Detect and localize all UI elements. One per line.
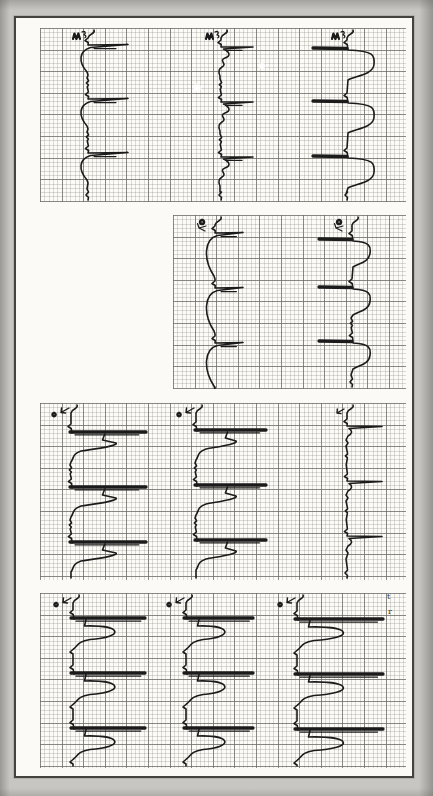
ecg-panel-2	[173, 215, 406, 389]
ecg-panel-1	[40, 28, 406, 202]
dot-arrow-mark-p4-s1-0	[54, 603, 57, 606]
ecg-strip-p4-s3	[278, 595, 383, 766]
qrs-spikes-p4-s3	[295, 619, 383, 729]
ecg-panel-2-traces	[173, 215, 406, 389]
trace-p1-s1	[81, 30, 128, 200]
m-squiggle-mark-p1-s3-1	[341, 32, 345, 38]
dot-arrow-mark-p4-s2-1	[176, 598, 184, 603]
dot-arrow-mark-p4-s2-0	[167, 603, 170, 606]
retrace-p3-s1	[75, 435, 139, 545]
retrace-p1-s1	[94, 49, 116, 157]
retrace-p3-s2	[200, 433, 260, 543]
qrs-spikes-p1-s3	[313, 48, 347, 157]
m-squiggle-mark-p1-s2-0	[206, 34, 213, 40]
scanned-figure: tr	[0, 0, 433, 796]
ecg-panel-3	[40, 403, 406, 580]
m-squiggle-mark-p1-s1-0	[73, 34, 80, 40]
scan-spot-0	[192, 83, 202, 93]
trace-p4-s3	[294, 595, 343, 766]
qrs-spikes-p3-s2	[195, 430, 266, 540]
retrace-p4-s1	[76, 621, 141, 731]
dot-arrow-mark-p3-s1-1	[61, 408, 69, 413]
ecg-strip-p2-s2	[319, 217, 370, 387]
ecg-panel-4-traces	[40, 593, 406, 768]
dot-squiggle-mark-p2-s1-0	[200, 220, 204, 224]
ecg-strip-p3-s2	[177, 405, 266, 578]
ecg-strip-p1-s2	[206, 30, 253, 200]
dot-arrow-mark-p3-s2-1	[186, 408, 194, 413]
scan-shadow-top	[0, 0, 433, 10]
qrs-spikes-p4-s1	[71, 618, 145, 728]
ecg-strip-p1-s3	[313, 30, 374, 200]
dot-arrow-mark-p4-s3-0	[278, 603, 281, 606]
ecg-strip-p3-s3	[337, 405, 382, 578]
scan-shadow-right	[419, 0, 433, 796]
ecg-strip-p2-s1	[198, 217, 244, 389]
retrace-p4-s2	[189, 621, 249, 731]
margin-letter-r: r	[388, 608, 392, 616]
retrace-p4-s3	[300, 622, 377, 732]
ecg-panel-1-traces	[40, 28, 406, 202]
dot-arrow-mark-p3-s2-0	[177, 413, 180, 416]
trace-p1-s3	[344, 30, 374, 200]
m-squiggle-mark-p1-s3-0	[332, 34, 339, 40]
figure-page: tr	[14, 16, 414, 778]
ecg-strip-p1-s1	[73, 30, 128, 200]
trace-p2-s2	[349, 217, 370, 387]
m-squiggle-mark-p1-s1-1	[82, 32, 86, 38]
arrow-mark-p3-s3-0	[337, 409, 344, 414]
margin-letter-t: t	[387, 593, 390, 601]
qrs-spikes-p4-s2	[184, 618, 253, 728]
qrs-spikes-p3-s1	[70, 432, 146, 542]
dot-arrow-mark-p4-s3-1	[287, 598, 295, 603]
retrace-p1-s2	[226, 50, 242, 160]
scan-shadow-left	[0, 0, 10, 796]
scan-spot-1	[258, 62, 266, 70]
ecg-panel-4	[40, 593, 406, 768]
scan-shadow-bottom	[0, 788, 433, 796]
m-squiggle-mark-p1-s2-1	[215, 32, 219, 38]
trace-p2-s1	[206, 217, 243, 389]
qrs-spikes-p2-s2	[319, 239, 352, 342]
dot-arrow-mark-p4-s1-1	[63, 598, 71, 603]
ecg-strip-p4-s1	[54, 595, 145, 766]
dot-arrow-mark-p3-s1-0	[52, 413, 55, 416]
retrace-p2-s1	[221, 237, 236, 347]
trace-p1-s2	[218, 30, 253, 200]
ecg-strip-p4-s2	[167, 595, 253, 766]
dot-squiggle-mark-p2-s2-0	[337, 220, 341, 224]
ecg-panel-3-traces	[40, 403, 406, 580]
ecg-strip-p3-s1	[52, 405, 146, 578]
trace-p3-s3	[344, 405, 382, 578]
